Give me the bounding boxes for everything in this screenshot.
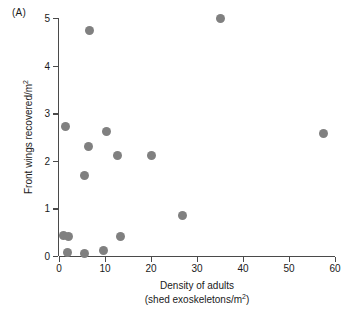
- x-tick-label: 60: [329, 263, 340, 274]
- x-tick-label: 30: [191, 263, 202, 274]
- y-tick-mark: [53, 66, 58, 67]
- x-tick-label: 10: [99, 263, 110, 274]
- x-tick-mark: [243, 257, 244, 262]
- x-axis-title-line2: (shed exoskeletons/m2): [59, 293, 335, 307]
- x-tick-mark: [289, 257, 290, 262]
- x-tick-mark: [197, 257, 198, 262]
- y-axis-line: [58, 18, 59, 256]
- scatter-point: [85, 26, 94, 35]
- x-tick-mark: [335, 257, 336, 262]
- scatter-point: [216, 14, 225, 23]
- x-tick-mark: [59, 257, 60, 262]
- x-tick-label: 0: [56, 263, 62, 274]
- x-axis-title-line2-prefix: (shed exoskeletons/m: [145, 294, 242, 305]
- scatter-point: [99, 246, 108, 255]
- scatter-point: [80, 171, 89, 180]
- y-axis-title-superscript: 2: [22, 80, 29, 84]
- x-tick-label: 20: [145, 263, 156, 274]
- plot-area: 012345 0102030405060: [59, 18, 335, 256]
- x-axis-title-line2-suffix: ): [246, 294, 249, 305]
- scatter-point: [113, 151, 122, 160]
- x-tick-label: 40: [237, 263, 248, 274]
- y-tick-mark: [53, 18, 58, 19]
- scatter-point: [64, 232, 73, 241]
- y-tick-mark: [53, 208, 58, 209]
- x-tick-mark: [151, 257, 152, 262]
- scatter-point: [61, 122, 70, 131]
- figure-panel-a: (A) 012345 0102030405060 Density of adul…: [0, 0, 355, 318]
- y-tick-label: 0: [44, 251, 50, 262]
- y-tick-label: 3: [44, 108, 50, 119]
- scatter-point: [102, 127, 111, 136]
- scatter-point: [63, 248, 72, 257]
- y-tick-label: 4: [44, 60, 50, 71]
- x-tick-mark: [105, 257, 106, 262]
- scatter-point: [84, 142, 93, 151]
- scatter-point: [319, 129, 328, 138]
- scatter-point: [178, 211, 187, 220]
- panel-label: (A): [12, 7, 26, 18]
- y-tick-mark: [53, 161, 58, 162]
- x-tick-label: 50: [283, 263, 294, 274]
- x-axis-title-line1: Density of adults: [59, 279, 335, 293]
- y-axis-title-prefix: Front wings recovered/m: [23, 84, 34, 194]
- y-tick-mark: [53, 256, 58, 257]
- scatter-point: [147, 151, 156, 160]
- y-tick-label: 2: [44, 155, 50, 166]
- y-tick-label: 5: [44, 13, 50, 24]
- y-tick-mark: [53, 113, 58, 114]
- x-axis-title: Density of adults (shed exoskeletons/m2): [59, 279, 335, 306]
- scatter-point: [116, 232, 125, 241]
- y-axis-title: Front wings recovered/m2: [22, 18, 36, 256]
- y-tick-label: 1: [44, 203, 50, 214]
